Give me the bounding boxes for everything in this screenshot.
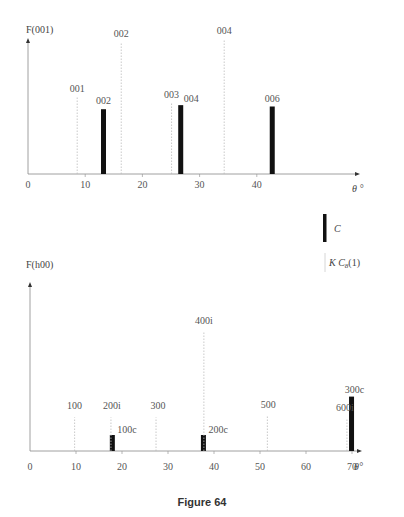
bar-label: 004	[184, 93, 199, 104]
bar-c	[178, 105, 183, 174]
x-axis-label: θ°	[354, 461, 363, 472]
figure-svg: F(001)010203040θ °002004006001002003004 …	[0, 0, 404, 517]
y-axis-label: F(001)	[26, 24, 53, 36]
line-label: 600i	[336, 402, 354, 413]
legend-thick-bar-icon	[323, 214, 327, 242]
x-tick-label: 0	[26, 179, 31, 190]
legend: CK C8(1)	[323, 214, 360, 272]
x-tick-label: 20	[137, 179, 147, 190]
x-tick-label: 30	[195, 179, 205, 190]
line-label: 400i	[195, 315, 213, 326]
bar-label: 300c	[345, 384, 365, 395]
chart-f001: F(001)010203040θ °002004006001002003004	[26, 24, 364, 194]
bar-label: 200c	[208, 424, 228, 435]
bar-c	[270, 107, 275, 175]
x-tick-label: 50	[255, 461, 265, 472]
y-axis-arrow-icon	[28, 282, 32, 287]
x-tick-label: 30	[163, 461, 173, 472]
bar-label: 006	[265, 93, 280, 104]
x-tick-label: 0	[28, 461, 33, 472]
line-label: 100	[67, 400, 82, 411]
x-tick-label: 20	[117, 461, 127, 472]
chart-fh00: F(h00)010203040506070θ°100c200c300c10020…	[26, 259, 365, 472]
legend-label-k: K C8(1)	[328, 257, 360, 270]
bar-label: 100c	[117, 424, 137, 435]
legend-label-c: C	[334, 223, 341, 234]
line-label: 200i	[103, 400, 121, 411]
line-label: 300	[151, 400, 166, 411]
x-tick-label: 10	[71, 461, 81, 472]
figure-caption: Figure 64	[0, 496, 404, 508]
bar-c	[201, 435, 206, 451]
x-axis-arrow-icon	[357, 449, 362, 453]
bar-c	[110, 435, 115, 451]
x-tick-label: 40	[209, 461, 219, 472]
x-axis-label: θ °	[352, 183, 363, 194]
bar-c	[101, 109, 106, 174]
line-label: 001	[70, 83, 85, 94]
bar-label: 002	[96, 95, 111, 106]
y-axis-label: F(h00)	[26, 259, 53, 271]
x-tick-label: 10	[80, 179, 90, 190]
line-label: 004	[217, 25, 232, 36]
y-axis-arrow-icon	[26, 38, 30, 43]
line-label: 002	[114, 28, 129, 39]
x-axis-arrow-icon	[355, 172, 360, 176]
line-label: 003	[164, 89, 179, 100]
x-tick-label: 60	[301, 461, 311, 472]
line-label: 500	[261, 399, 276, 410]
x-tick-label: 40	[252, 179, 262, 190]
